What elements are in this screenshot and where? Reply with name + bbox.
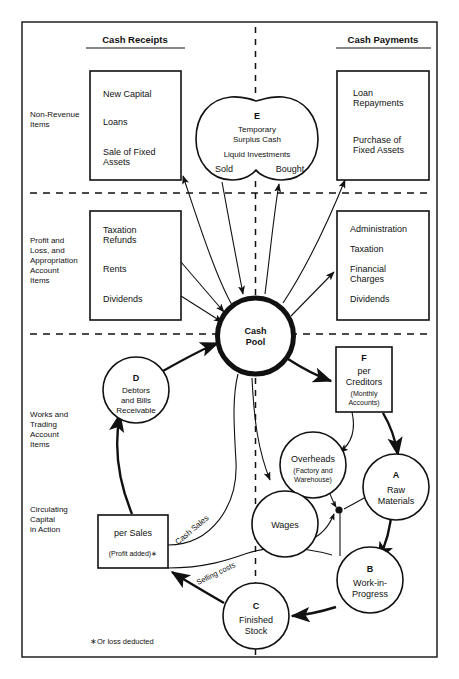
node-line: Work-in- [353, 578, 387, 588]
node-letter: C [253, 601, 260, 611]
node-line: Cash [244, 326, 266, 336]
row-label-line: in Action [30, 525, 60, 534]
edge-creditors-to-overheads [340, 412, 354, 452]
box-line: Rents [103, 264, 127, 274]
row-label-line: Account [30, 266, 60, 275]
node-finished-stock: C Finished Stock [223, 583, 289, 649]
node-line: Temporary [238, 125, 276, 134]
box-line: Charges [350, 274, 385, 284]
row-label-non-revenue: Non-Revenue Items [30, 110, 80, 129]
node-letter: B [367, 564, 374, 574]
header-cash-payments: Cash Payments [348, 34, 419, 45]
box-payments-non-revenue [337, 71, 429, 180]
diagram-canvas: Cash Receipts Cash Payments Non-Revenue … [0, 0, 459, 679]
node-cash-pool: Cash Pool [218, 298, 294, 374]
footnote: ∗Or loss deducted [90, 637, 154, 646]
row-label-circulating: Circulating Capital in Action [30, 505, 68, 534]
box-line: Assets [103, 157, 131, 167]
box-line: Fixed Assets [353, 145, 405, 155]
box-line: New Capital [103, 89, 152, 99]
edge-persales-to-debtors [117, 414, 132, 514]
node-sold-label: Sold [215, 164, 233, 174]
edge-pool-to-creditors [288, 359, 331, 381]
node-line: Finished [239, 615, 273, 625]
node-line: Raw [387, 485, 406, 495]
box-line: Purchase of [353, 135, 402, 145]
edge-selling-costs-curve [168, 548, 332, 568]
box-line: (Profit added)∗ [109, 550, 157, 558]
box-line: Dividends [350, 294, 390, 304]
node-line: Stock [245, 626, 268, 636]
row-label-line: Capital [30, 515, 55, 524]
box-line: per Sales [114, 528, 153, 538]
box-line: Taxation [350, 244, 384, 254]
node-debtors: D Debtors and Bills Receivable [103, 357, 169, 423]
node-line: Overheads [291, 454, 336, 464]
node-line: Warehouse) [294, 476, 332, 484]
node-line: and Bills [121, 396, 151, 405]
row-label-line: Items [30, 440, 50, 449]
edge-pool-to-payments-nonrevenue [283, 180, 345, 303]
node-overheads: Overheads (Factory and Warehouse) [280, 432, 346, 498]
node-letter: E [254, 111, 260, 121]
edge-pool-to-surplus-bought [265, 184, 279, 294]
flow-junction-dot [335, 506, 342, 513]
row-label-line: Items [30, 276, 50, 285]
row-label-line: Profit and [30, 236, 64, 245]
row-label-line: Works and [30, 410, 68, 419]
box-line: per [357, 366, 370, 376]
node-line: (Factory and [293, 467, 332, 475]
edge-debtors-to-pool [163, 343, 218, 371]
node-temporary-surplus-cash: E Temporary Surplus Cash Liquid Investme… [196, 97, 318, 180]
box-line: (Monthly [351, 390, 378, 398]
row-label-line: Non-Revenue [30, 110, 80, 119]
box-line: Dividends [103, 294, 143, 304]
row-label-line: Trading [30, 420, 57, 429]
node-line: Surplus Cash [233, 135, 281, 144]
node-wages: Wages [252, 491, 318, 557]
box-line: Repayments [353, 98, 404, 108]
row-label-line: Account [30, 430, 60, 439]
row-label-works-trading: Works and Trading Account Items [30, 410, 68, 449]
box-line: Taxation [103, 225, 137, 235]
box-line: Accounts) [348, 399, 379, 407]
box-line: Sale of Fixed [103, 147, 156, 157]
edge-label-selling-costs: Selling costs [195, 560, 237, 587]
node-letter: D [133, 373, 140, 383]
node-line: Materials [378, 496, 415, 506]
box-line: Creditors [346, 377, 383, 387]
node-work-in-progress: B Work-in- Progress [337, 547, 403, 613]
node-line: Wages [271, 520, 299, 530]
box-per-sales [98, 515, 168, 568]
header-cash-receipts: Cash Receipts [102, 34, 167, 45]
node-line: Pool [246, 337, 266, 347]
node-line: Debtors [122, 386, 150, 395]
box-line: Financial [350, 264, 386, 274]
edge-receipts-profitloss-to-pool [181, 262, 224, 312]
edge-label-cash-sales: Cash Sales [174, 513, 211, 546]
box-line: Refunds [103, 235, 137, 245]
row-label-line: Appropriation [30, 256, 78, 265]
node-line: Receivable [116, 406, 156, 415]
row-label-profit-loss: Profit and Loss, and Appropriation Accou… [30, 236, 78, 285]
row-label-line: Loss, and [30, 246, 65, 255]
node-line: Progress [352, 589, 389, 599]
node-letter: A [393, 470, 400, 480]
row-label-line: Items [30, 120, 50, 129]
box-letter: F [361, 353, 367, 363]
edge-wip-to-finishedstock [292, 607, 336, 616]
node-raw-materials: A Raw Materials [363, 454, 429, 520]
node-bought-label: Bought [276, 164, 305, 174]
edge-receipts-profitloss-to-pool-2 [181, 296, 222, 322]
edge-pool-to-wages [252, 378, 270, 480]
box-line: Administration [350, 224, 407, 234]
edge-surplus-sold-to-pool [222, 182, 243, 294]
row-label-line: Circulating [30, 505, 68, 514]
cash-flow-diagram-page: Cash Receipts Cash Payments Non-Revenue … [0, 0, 459, 679]
node-line: Liquid Investments [224, 150, 291, 159]
edge-creditors-to-rawmaterials [383, 413, 398, 455]
box-line: Loan [353, 88, 373, 98]
box-line: Loans [103, 117, 128, 127]
